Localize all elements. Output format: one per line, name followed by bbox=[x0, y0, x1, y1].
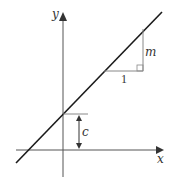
y-axis-arrow-icon bbox=[59, 12, 67, 21]
x-axis bbox=[16, 146, 164, 154]
run-label: 1 bbox=[121, 72, 127, 86]
gradient-triangle bbox=[104, 29, 143, 71]
line-equation-diagram: y x m 1 c bbox=[0, 0, 176, 185]
right-angle-marker bbox=[137, 65, 143, 71]
y-axis-label: y bbox=[51, 7, 59, 21]
straight-line bbox=[16, 12, 162, 163]
x-axis-label: x bbox=[157, 152, 164, 166]
gradient-label: m bbox=[145, 45, 156, 59]
diagram-canvas: y x m 1 c bbox=[0, 0, 176, 185]
intercept-arrow-down-icon bbox=[76, 143, 82, 149]
intercept-arrow-up-icon bbox=[76, 115, 82, 121]
intercept-label: c bbox=[82, 125, 89, 139]
y-axis bbox=[59, 12, 67, 177]
